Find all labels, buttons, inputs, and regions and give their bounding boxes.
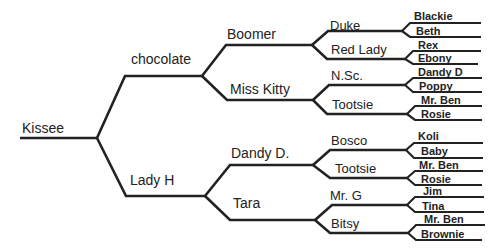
gen4-label-jim: Jim bbox=[423, 185, 442, 197]
gen4-label-poppy: Poppy bbox=[419, 80, 453, 92]
gen2-label-miss-kitty: Miss Kitty bbox=[230, 81, 290, 97]
gen1-label-lady-h: Lady H bbox=[130, 172, 174, 188]
connector-jim bbox=[407, 197, 484, 205]
gen4-label-beth: Beth bbox=[416, 25, 441, 37]
gen4-label-mr-ben-2: Mr. Ben bbox=[419, 159, 459, 171]
connector-boomer bbox=[202, 45, 312, 76]
connector-beth bbox=[402, 31, 481, 37]
gen4-label-tina: Tina bbox=[422, 200, 445, 212]
gen3-label-duke: Duke bbox=[330, 18, 360, 33]
gen2-label-boomer: Boomer bbox=[227, 26, 276, 42]
root-label: Kissee bbox=[22, 120, 64, 136]
gen3-label-mr-g: Mr. G bbox=[330, 188, 362, 203]
gen4-label-rosie-1: Rosie bbox=[421, 108, 451, 120]
gen4-label-ebony: Ebony bbox=[418, 52, 452, 64]
connector-bitsy bbox=[315, 220, 408, 233]
gen3-label-nsc: N.Sc. bbox=[331, 68, 363, 83]
node-root: Kissee bbox=[20, 120, 97, 138]
gen3-label-bitsy: Bitsy bbox=[331, 216, 360, 231]
gen4-label-rosie-2: Rosie bbox=[421, 173, 451, 185]
gen4-label-baby: Baby bbox=[421, 145, 449, 157]
gen4-label-mr-ben-1: Mr. Ben bbox=[421, 94, 461, 106]
gen4-label-rex: Rex bbox=[418, 39, 439, 51]
gen4-label-brownie: Brownie bbox=[421, 228, 464, 240]
connector-dandy-d bbox=[205, 165, 313, 196]
gen3-label-red-lady: Red Lady bbox=[331, 42, 387, 57]
connector-tina bbox=[407, 205, 484, 212]
gen2-label-tara: Tara bbox=[233, 195, 260, 211]
gen1-label-chocolate: chocolate bbox=[131, 51, 191, 67]
gen4-label-koli: Koli bbox=[418, 130, 439, 142]
gen4-label-mr-ben-3: Mr. Ben bbox=[424, 213, 464, 225]
gen4-label-blackie: Blackie bbox=[414, 10, 453, 22]
connector-mr-g bbox=[315, 205, 407, 220]
gen3-label-bosco: Bosco bbox=[331, 133, 367, 148]
gen3-label-tootsie-1: Tootsie bbox=[332, 97, 373, 112]
gen2-label-dandy-d: Dandy D. bbox=[231, 145, 289, 161]
gen3-label-tootsie-2: Tootsie bbox=[335, 161, 376, 176]
pedigree-diagram: Kissee chocolate Lady H Boomer Miss Kitt… bbox=[0, 0, 502, 252]
connector-chocolate bbox=[97, 76, 202, 138]
gen4-label-dandy-d: Dandy D bbox=[418, 66, 463, 78]
connector-blackie bbox=[402, 23, 481, 31]
